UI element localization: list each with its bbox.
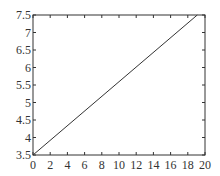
line-chart: 02468101214161820 3.544.555.566.577.5 [0,0,220,176]
y-tick-label: 6 [25,61,31,75]
x-axis: 02468101214161820 [30,15,211,172]
x-tick-label: 2 [47,158,53,172]
x-tick-label: 8 [99,158,105,172]
x-tick-label: 6 [82,158,88,172]
y-tick-label: 5 [25,96,31,110]
data-series [33,15,197,155]
x-tick-label: 10 [113,158,125,172]
x-tick-label: 18 [182,158,194,172]
y-tick-label: 5.5 [16,78,31,92]
axes-frame [33,15,205,155]
y-axis: 3.544.555.566.577.5 [16,8,205,162]
x-tick-label: 4 [64,158,70,172]
x-tick-label: 20 [199,158,211,172]
y-tick-label: 4.5 [16,113,31,127]
y-tick-label: 7 [25,26,31,40]
y-tick-label: 7.5 [16,8,31,22]
y-tick-label: 4 [25,131,31,145]
y-tick-label: 3.5 [16,148,31,162]
plot-area [33,15,205,155]
x-tick-label: 12 [130,158,142,172]
y-tick-label: 6.5 [16,43,31,57]
series-line [33,15,197,155]
x-tick-label: 14 [147,158,159,172]
x-tick-label: 16 [165,158,177,172]
